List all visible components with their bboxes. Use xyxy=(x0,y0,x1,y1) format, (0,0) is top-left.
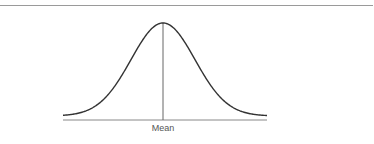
bell-curve-diagram xyxy=(0,0,374,144)
mean-label: Mean xyxy=(143,123,183,133)
normal-curve xyxy=(63,23,267,116)
